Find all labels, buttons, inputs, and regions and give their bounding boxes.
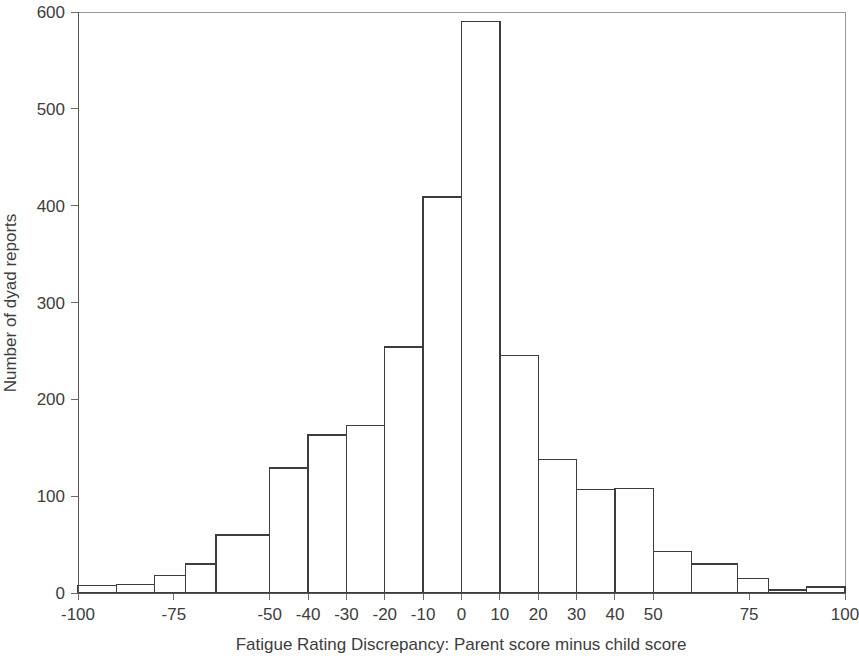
y-axis-ticks: 0100200300400500600 — [37, 3, 78, 603]
histogram-bar — [116, 584, 154, 593]
histogram-bar — [216, 535, 270, 593]
histogram-bar — [346, 425, 384, 593]
histogram-bar — [308, 435, 346, 593]
x-axis-ticks: -100-75-50-40-30-20-100102030405075100 — [61, 593, 859, 624]
x-tick-label: 50 — [644, 605, 663, 624]
y-tick-label: 0 — [56, 584, 65, 603]
x-tick-label: -40 — [296, 605, 321, 624]
y-tick-label: 100 — [37, 487, 65, 506]
x-tick-label: 10 — [490, 605, 509, 624]
bars-group — [78, 22, 845, 593]
histogram-bar — [500, 356, 538, 593]
histogram-chart: -100-75-50-40-30-20-100102030405075100 0… — [0, 0, 859, 661]
x-tick-label: -75 — [162, 605, 187, 624]
x-tick-label: -100 — [61, 605, 95, 624]
x-tick-label: -10 — [411, 605, 436, 624]
x-tick-label: -30 — [334, 605, 359, 624]
y-tick-label: 200 — [37, 390, 65, 409]
histogram-bar — [78, 585, 116, 593]
histogram-bar — [738, 578, 769, 593]
histogram-bar — [653, 551, 691, 593]
histogram-bar — [155, 576, 186, 593]
x-axis-title: Fatigue Rating Discrepancy: Parent score… — [236, 635, 687, 654]
x-tick-label: -50 — [257, 605, 282, 624]
y-axis-title: Number of dyad reports — [1, 214, 20, 393]
x-tick-label: 75 — [740, 605, 759, 624]
y-tick-label: 300 — [37, 294, 65, 313]
x-tick-label: 0 — [457, 605, 466, 624]
chart-canvas: -100-75-50-40-30-20-100102030405075100 0… — [0, 0, 859, 661]
x-tick-label: 20 — [529, 605, 548, 624]
histogram-bar — [807, 587, 845, 593]
histogram-bar — [270, 468, 308, 593]
histogram-bar — [615, 488, 653, 593]
x-tick-label: -20 — [373, 605, 398, 624]
x-tick-label: 30 — [567, 605, 586, 624]
histogram-bar — [423, 197, 461, 593]
y-tick-label: 400 — [37, 197, 65, 216]
x-tick-label: 100 — [831, 605, 859, 624]
histogram-bar — [692, 564, 738, 593]
histogram-bar — [462, 22, 500, 593]
histogram-bar — [385, 347, 423, 593]
y-tick-label: 600 — [37, 3, 65, 22]
y-tick-label: 500 — [37, 100, 65, 119]
histogram-bar — [185, 564, 216, 593]
histogram-bar — [577, 489, 615, 593]
histogram-bar — [538, 459, 576, 593]
x-tick-label: 40 — [605, 605, 624, 624]
